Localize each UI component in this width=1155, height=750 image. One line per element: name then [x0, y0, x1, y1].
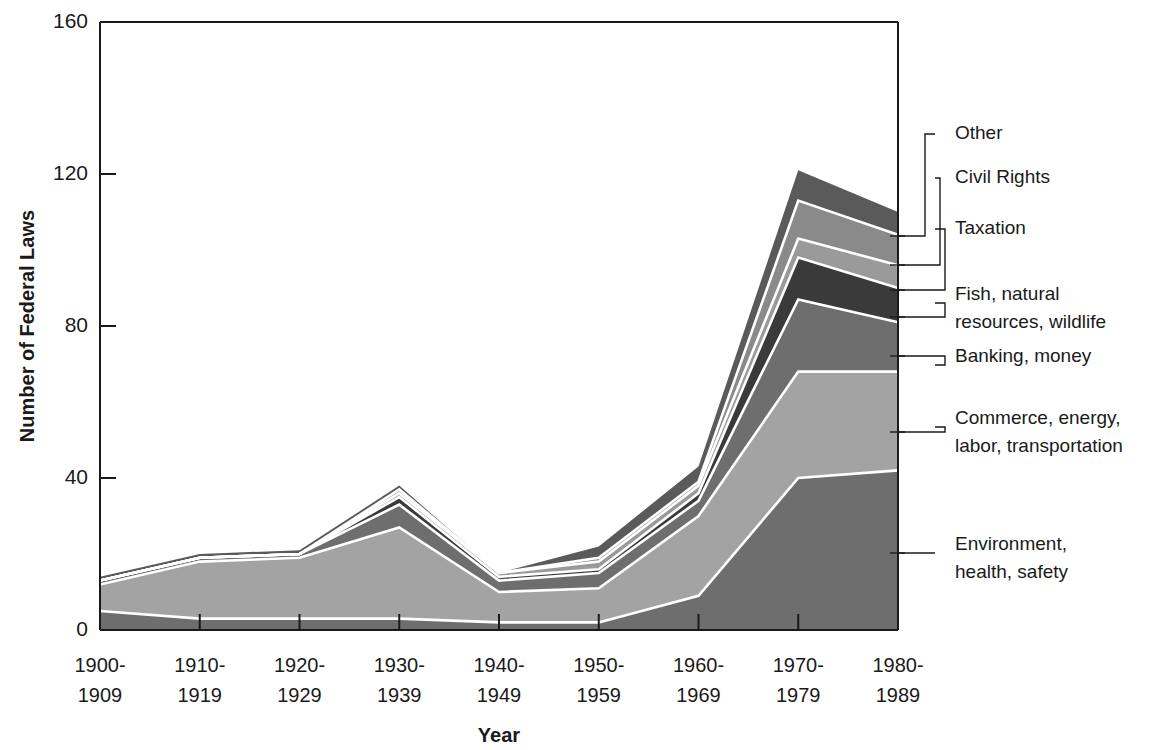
legend-label: health, safety	[955, 561, 1069, 582]
x-tick-label: 1959	[577, 684, 622, 706]
x-tick-label: 1920-	[274, 654, 325, 676]
x-tick-label: 1960-	[673, 654, 724, 676]
x-tick-label: 1939	[377, 684, 422, 706]
x-tick-label: 1900-	[74, 654, 125, 676]
legend-label: Banking, money	[955, 345, 1092, 366]
y-tick-label: 80	[65, 313, 88, 336]
x-tick-label: 1930-	[374, 654, 425, 676]
y-tick-label: 0	[76, 617, 88, 640]
chart-background	[0, 0, 1155, 750]
chart-canvas: 04080120160 1900-19091910-19191920-19291…	[0, 0, 1155, 750]
x-axis-title: Year	[478, 724, 520, 746]
legend-label: Taxation	[955, 217, 1026, 238]
y-tick-label: 120	[53, 161, 88, 184]
x-tick-label: 1910-	[174, 654, 225, 676]
legend-label: resources, wildlife	[955, 311, 1106, 332]
y-tick-label: 40	[65, 465, 88, 488]
x-tick-label: 1909	[78, 684, 123, 706]
legend-label: Other	[955, 122, 1003, 143]
stacked-area-chart: 04080120160 1900-19091910-19191920-19291…	[0, 0, 1155, 750]
legend-label: Civil Rights	[955, 166, 1050, 187]
x-tick-label: 1970-	[773, 654, 824, 676]
x-tick-label: 1940-	[473, 654, 524, 676]
legend-label: Commerce, energy,	[955, 407, 1120, 428]
x-tick-label: 1950-	[573, 654, 624, 676]
x-tick-label: 1919	[178, 684, 223, 706]
x-tick-label: 1929	[277, 684, 322, 706]
y-tick-label: 160	[53, 9, 88, 32]
legend-label: Fish, natural	[955, 283, 1060, 304]
y-axis-title: Number of Federal Laws	[16, 210, 38, 442]
legend-label: Environment,	[955, 533, 1067, 554]
legend-label: labor, transportation	[955, 435, 1123, 456]
x-tick-label: 1989	[876, 684, 921, 706]
x-tick-label: 1979	[776, 684, 821, 706]
x-tick-label: 1980-	[872, 654, 923, 676]
x-tick-label: 1969	[676, 684, 721, 706]
x-tick-label: 1949	[477, 684, 522, 706]
